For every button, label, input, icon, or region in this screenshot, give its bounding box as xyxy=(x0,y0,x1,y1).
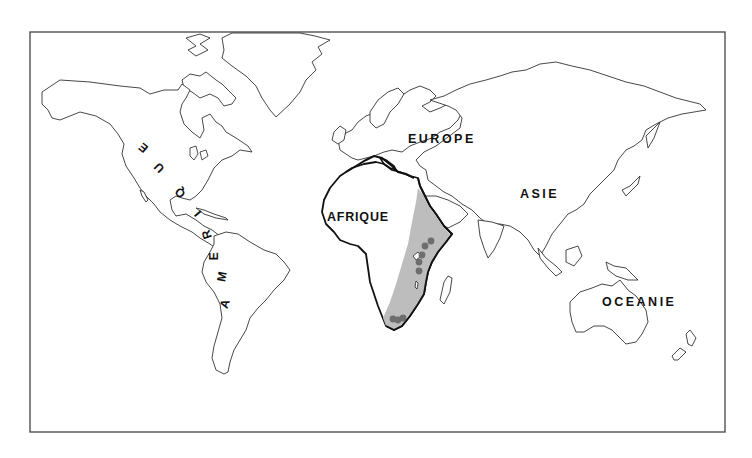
lake-malawi xyxy=(415,281,418,289)
new-zealand xyxy=(672,330,696,360)
madagascar xyxy=(440,276,452,304)
label-oceanie: OCEANIE xyxy=(602,295,676,309)
southeast-asia xyxy=(538,246,582,276)
australia xyxy=(570,280,648,344)
site-marker xyxy=(416,259,423,266)
site-marker xyxy=(400,315,407,322)
india xyxy=(478,220,504,258)
label-afrique: AFRIQUE xyxy=(327,210,389,224)
label-amerique-letter: E xyxy=(207,250,221,261)
label-amerique-letter: M xyxy=(214,268,230,283)
site-marker xyxy=(422,243,429,250)
site-marker xyxy=(428,238,435,245)
new-guinea xyxy=(606,262,638,280)
label-europe: EUROPE xyxy=(408,132,476,146)
world-map: EUROPE ASIE AFRIQUE OCEANIE A M E R I Q … xyxy=(0,0,752,458)
north-america xyxy=(42,80,252,250)
site-marker xyxy=(419,252,426,259)
greenland xyxy=(222,33,330,117)
japan xyxy=(622,176,640,196)
asia xyxy=(416,62,706,256)
label-asie: ASIE xyxy=(520,187,559,201)
site-marker xyxy=(416,268,423,275)
